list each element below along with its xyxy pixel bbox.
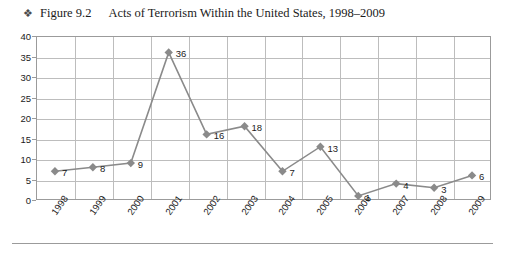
y-axis-tick-label: 35 — [20, 51, 31, 62]
y-axis-tick-label: 15 — [20, 133, 31, 144]
data-point-label: 3 — [441, 183, 446, 194]
y-axis-tick-label: 40 — [20, 31, 31, 42]
data-label-layer: 7893616187131436 — [36, 36, 491, 200]
figure-title: Acts of Terrorism Within the United Stat… — [108, 6, 385, 21]
data-point-label: 13 — [327, 142, 338, 153]
data-point-label: 18 — [252, 122, 263, 133]
x-axis: 1998199920002001200220032004200520062007… — [36, 200, 491, 234]
data-point-label: 9 — [138, 159, 143, 170]
figure-number: Figure 9.2 — [40, 6, 91, 21]
data-point-label: 7 — [289, 167, 294, 178]
data-point-label: 36 — [176, 48, 187, 59]
y-axis-tick-label: 10 — [20, 154, 31, 165]
floral-diamond-bullet-icon: ❖ — [20, 8, 36, 19]
data-point-label: 16 — [214, 130, 225, 141]
data-point-label: 4 — [403, 179, 408, 190]
data-point-label: 6 — [479, 171, 484, 182]
y-axis-tick-label: 25 — [20, 92, 31, 103]
figure-caption: ❖ Figure 9.2 Acts of Terrorism Within th… — [0, 2, 505, 24]
line-chart: 0510152025303540 7893616187131436 199819… — [0, 24, 505, 234]
data-point-label: 7 — [62, 167, 67, 178]
data-point-label: 8 — [100, 163, 105, 174]
bottom-divider — [12, 243, 493, 244]
y-axis-tick-label: 0 — [26, 195, 31, 206]
y-axis-tick-label: 20 — [20, 113, 31, 124]
y-axis-tick-label: 5 — [26, 174, 31, 185]
y-axis-tick-label: 30 — [20, 72, 31, 83]
